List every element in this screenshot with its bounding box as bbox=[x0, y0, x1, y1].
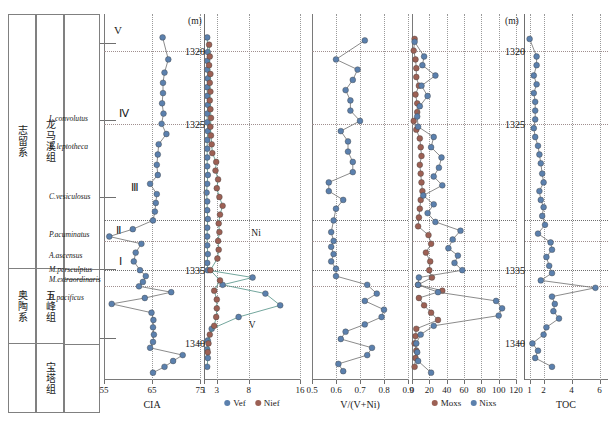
data-point[interactable] bbox=[204, 242, 210, 248]
data-point[interactable] bbox=[214, 305, 220, 311]
data-point[interactable] bbox=[153, 200, 159, 206]
data-point[interactable] bbox=[162, 70, 168, 76]
data-point[interactable] bbox=[345, 149, 351, 155]
data-point[interactable] bbox=[421, 54, 427, 60]
data-point[interactable] bbox=[431, 323, 437, 329]
legend-item[interactable]: Moxs bbox=[432, 398, 462, 408]
data-point[interactable] bbox=[213, 314, 219, 320]
data-point[interactable] bbox=[428, 241, 434, 247]
data-point[interactable] bbox=[534, 54, 540, 60]
data-point[interactable] bbox=[150, 324, 156, 330]
data-point[interactable] bbox=[206, 42, 212, 48]
data-point[interactable] bbox=[532, 355, 538, 361]
data-point[interactable] bbox=[131, 259, 137, 265]
data-point[interactable] bbox=[418, 144, 424, 150]
data-point[interactable] bbox=[204, 146, 210, 152]
data-point[interactable] bbox=[343, 87, 349, 93]
data-point[interactable] bbox=[136, 283, 142, 289]
data-point[interactable] bbox=[417, 103, 423, 109]
data-point[interactable] bbox=[539, 171, 545, 177]
data-point[interactable] bbox=[439, 155, 445, 161]
data-point[interactable] bbox=[435, 317, 441, 323]
data-point[interactable] bbox=[155, 152, 161, 158]
data-point[interactable] bbox=[205, 251, 211, 257]
data-point[interactable] bbox=[204, 234, 210, 240]
data-point[interactable] bbox=[106, 234, 112, 240]
data-point[interactable] bbox=[154, 162, 160, 168]
data-point[interactable] bbox=[204, 163, 210, 169]
data-point[interactable] bbox=[412, 364, 418, 370]
data-point[interactable] bbox=[204, 207, 210, 213]
data-point[interactable] bbox=[532, 108, 538, 114]
data-point[interactable] bbox=[414, 349, 420, 355]
data-point[interactable] bbox=[326, 180, 332, 186]
data-point[interactable] bbox=[415, 358, 421, 364]
data-point[interactable] bbox=[428, 310, 434, 316]
data-point[interactable] bbox=[527, 36, 533, 42]
data-point[interactable] bbox=[593, 285, 599, 291]
data-point[interactable] bbox=[217, 229, 223, 235]
data-point[interactable] bbox=[156, 141, 162, 147]
data-point[interactable] bbox=[208, 106, 214, 112]
data-point[interactable] bbox=[154, 191, 160, 197]
data-point[interactable] bbox=[542, 222, 548, 228]
data-point[interactable] bbox=[137, 267, 143, 273]
legend-item[interactable]: Nief bbox=[255, 398, 280, 408]
data-point[interactable] bbox=[431, 134, 437, 140]
data-point[interactable] bbox=[541, 204, 547, 210]
data-point[interactable] bbox=[551, 308, 557, 314]
data-point[interactable] bbox=[413, 333, 419, 339]
data-point[interactable] bbox=[416, 295, 422, 301]
data-point[interactable] bbox=[417, 162, 423, 168]
data-point[interactable] bbox=[333, 206, 339, 212]
data-point[interactable] bbox=[556, 316, 562, 322]
data-point[interactable] bbox=[333, 266, 339, 272]
data-point[interactable] bbox=[357, 118, 363, 124]
data-point[interactable] bbox=[165, 57, 171, 63]
data-point[interactable] bbox=[208, 267, 214, 273]
data-point[interactable] bbox=[345, 139, 351, 145]
data-point[interactable] bbox=[208, 115, 214, 121]
data-point[interactable] bbox=[531, 125, 537, 131]
data-point[interactable] bbox=[426, 232, 432, 238]
data-point[interactable] bbox=[450, 237, 456, 243]
data-point[interactable] bbox=[411, 48, 417, 54]
data-point[interactable] bbox=[446, 245, 452, 251]
data-point[interactable] bbox=[215, 177, 221, 183]
data-point[interactable] bbox=[206, 341, 212, 347]
data-point[interactable] bbox=[152, 209, 158, 215]
data-point[interactable] bbox=[364, 352, 370, 358]
data-point[interactable] bbox=[150, 370, 156, 376]
data-point[interactable] bbox=[419, 153, 425, 159]
data-point[interactable] bbox=[350, 159, 356, 165]
data-point[interactable] bbox=[205, 216, 211, 222]
data-point[interactable] bbox=[532, 99, 538, 105]
data-point[interactable] bbox=[204, 199, 210, 205]
data-point[interactable] bbox=[537, 188, 543, 194]
data-point[interactable] bbox=[328, 229, 334, 235]
data-point[interactable] bbox=[413, 341, 419, 347]
data-point[interactable] bbox=[133, 250, 139, 256]
data-point[interactable] bbox=[364, 282, 370, 288]
data-point[interactable] bbox=[207, 332, 213, 338]
data-point[interactable] bbox=[217, 194, 223, 200]
data-point[interactable] bbox=[531, 73, 537, 79]
data-point[interactable] bbox=[150, 339, 156, 345]
data-point[interactable] bbox=[538, 197, 544, 203]
data-point[interactable] bbox=[426, 267, 432, 273]
data-point[interactable] bbox=[162, 364, 168, 370]
data-point[interactable] bbox=[338, 336, 344, 342]
data-point[interactable] bbox=[541, 332, 547, 338]
data-point[interactable] bbox=[207, 98, 213, 104]
data-point[interactable] bbox=[459, 267, 465, 273]
data-point[interactable] bbox=[548, 240, 554, 246]
data-point[interactable] bbox=[207, 54, 213, 60]
data-point[interactable] bbox=[374, 291, 380, 297]
data-point[interactable] bbox=[414, 114, 420, 120]
data-point[interactable] bbox=[413, 74, 419, 80]
data-point[interactable] bbox=[415, 124, 421, 130]
data-point[interactable] bbox=[549, 364, 555, 370]
data-point[interactable] bbox=[213, 159, 219, 165]
data-point[interactable] bbox=[159, 100, 165, 106]
data-point[interactable] bbox=[205, 172, 211, 178]
